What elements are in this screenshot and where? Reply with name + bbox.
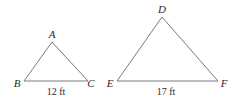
vertex-label-b: B bbox=[14, 77, 21, 89]
vertex-label-e: E bbox=[106, 77, 114, 89]
similar-triangles-diagram: A B C 12 ft D E F 17 ft bbox=[0, 0, 238, 99]
base-measure-bc: 12 ft bbox=[47, 86, 66, 97]
triangle-def: D E F 17 ft bbox=[106, 3, 228, 97]
triangle-abc-outline bbox=[24, 42, 88, 81]
vertex-label-f: F bbox=[220, 77, 228, 89]
base-measure-ef: 17 ft bbox=[157, 86, 176, 97]
vertex-label-a: A bbox=[48, 28, 56, 40]
vertex-label-d: D bbox=[157, 3, 166, 15]
vertex-label-c: C bbox=[87, 77, 95, 89]
triangle-abc: A B C 12 ft bbox=[14, 28, 96, 97]
triangle-def-outline bbox=[117, 17, 218, 81]
